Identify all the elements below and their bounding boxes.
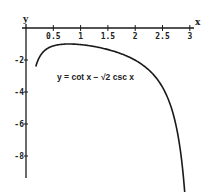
x-tick-label: 2.5 bbox=[155, 32, 170, 41]
y-tick-label: -8 bbox=[14, 152, 24, 161]
x-axis-label: x bbox=[195, 17, 201, 27]
y-axis-label: y bbox=[22, 14, 29, 24]
x-tick-label: 2 bbox=[133, 32, 138, 41]
x-tick-label: 0.5 bbox=[46, 32, 61, 41]
y-tick-label: -2 bbox=[14, 56, 24, 65]
equation-annotation: y = cot x − √2 csc x bbox=[57, 72, 134, 82]
y-tick-label: -6 bbox=[14, 120, 24, 129]
x-tick-label: 1 bbox=[78, 32, 83, 41]
chart: 0.511.522.53 -2-4-6-8 x y y = cot x − √2… bbox=[0, 0, 209, 192]
x-tick-label: 1.5 bbox=[101, 32, 116, 41]
curve-series bbox=[36, 44, 188, 192]
x-tick-label: 3 bbox=[187, 32, 192, 41]
y-tick-label: -4 bbox=[14, 88, 24, 97]
